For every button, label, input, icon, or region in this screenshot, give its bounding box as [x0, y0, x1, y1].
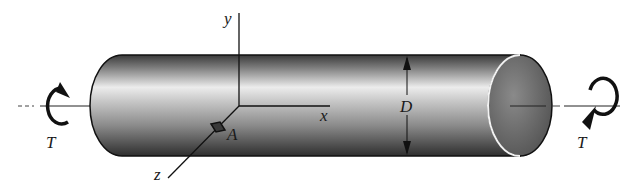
- torque-right: T: [577, 78, 617, 152]
- torque-left-label: T: [46, 133, 57, 152]
- z-axis-label: z: [153, 165, 161, 184]
- torque-right-label: T: [577, 133, 588, 152]
- point-a-label: A: [226, 125, 238, 144]
- y-axis-label: y: [222, 9, 232, 28]
- torque-left: T: [46, 82, 70, 152]
- diameter-label: D: [399, 97, 413, 116]
- torsion-shaft-diagram: y x z A D T T: [0, 0, 638, 186]
- x-axis-label: x: [319, 106, 328, 125]
